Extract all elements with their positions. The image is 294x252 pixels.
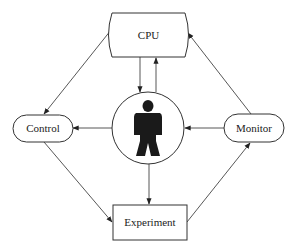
edge-monitor-to-cpu [188, 33, 251, 114]
edge-control-to-experiment [44, 142, 112, 222]
edge-experiment-to-monitor [187, 143, 250, 222]
edge-cpu-to-control [44, 30, 111, 114]
control-node: Control [13, 115, 73, 142]
monitor-label: Monitor [236, 122, 272, 134]
monitor-node: Monitor [224, 114, 284, 142]
cpu-label: CPU [138, 29, 159, 41]
human-computer-loop-diagram: CPU Control Monitor Experiment [0, 0, 294, 252]
cpu-node: CPU [109, 13, 189, 57]
experiment-node: Experiment [113, 205, 187, 240]
control-label: Control [26, 122, 60, 134]
human-node [112, 92, 184, 164]
experiment-label: Experiment [124, 216, 175, 228]
